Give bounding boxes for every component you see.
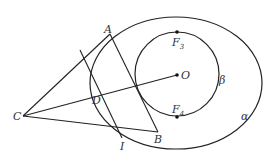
label-F3: F3 <box>171 36 185 51</box>
segment-AB <box>110 34 158 132</box>
label-O: O <box>181 69 190 82</box>
diagram-svg: A B C D O I F3 F4 α β <box>0 0 272 165</box>
segment-CB <box>23 116 158 132</box>
point-O <box>175 73 179 77</box>
label-beta: β <box>218 74 225 87</box>
label-alpha: α <box>241 110 249 123</box>
geometry-diagram: A B C D O I F3 F4 α β <box>0 0 272 165</box>
label-D: D <box>91 94 101 107</box>
label-C: C <box>13 110 22 123</box>
label-B: B <box>153 133 162 146</box>
label-I: I <box>119 140 125 153</box>
label-F4: F4 <box>171 103 184 118</box>
label-A: A <box>103 23 112 36</box>
point-F3 <box>175 30 179 34</box>
